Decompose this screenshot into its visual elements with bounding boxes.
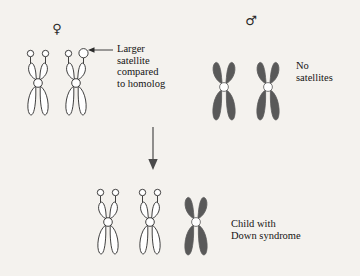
maternal-chromosome-2: [65, 49, 88, 115]
paternal-chromosome-2: [257, 62, 279, 119]
paternal-chromosome-1: [213, 62, 235, 119]
satellite-pointer-arrow: [88, 47, 113, 52]
offspring-chromosome-2: [139, 189, 160, 254]
inheritance-arrow: [148, 127, 157, 170]
maternal-chromosome-1: [27, 50, 48, 115]
figure-canvas: ♀ ♂: [0, 0, 360, 276]
paternal-no-satellite-annotation: No satellites: [296, 60, 356, 83]
offspring-chromosome-1: [97, 189, 118, 254]
offspring-caption: Child with Down syndrome: [231, 218, 346, 241]
maternal-satellite-annotation: Larger satellite compared to homolog: [117, 43, 187, 89]
offspring-chromosome-3: [185, 197, 207, 254]
